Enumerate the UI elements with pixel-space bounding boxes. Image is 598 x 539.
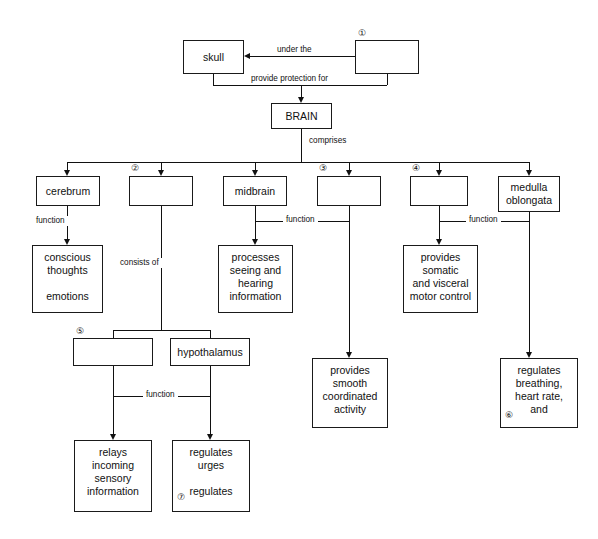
edge-comprises-stem [301,129,302,162]
edge-label-function-blank5: function [143,390,178,400]
edge-label-under-the: under the [274,45,315,55]
node-conscious-thoughts[interactable]: conscious thoughts emotions [32,245,103,313]
node-conscious-thoughts-label: conscious thoughts emotions [36,251,99,303]
node-cerebrum[interactable]: cerebrum [36,176,100,206]
edge-skull-drop [213,74,214,85]
edge-label-provide-protection-for: provide protection for [248,74,331,84]
edge-blank2-fork-bar [113,330,211,331]
marker-2: ② [131,163,139,174]
node-midbrain-label: midbrain [227,185,283,198]
edge-label-comprises: comprises [306,136,349,146]
edge-under-the-arrowhead [244,53,250,59]
node-blank-3[interactable] [317,176,381,206]
node-processes[interactable]: processes seeing and hearing information [218,245,293,313]
node-skull[interactable]: skull [183,40,244,74]
edge-to-medulla [529,162,530,170]
node-blank-1[interactable] [355,40,419,74]
diagram-canvas: skull ① under the provide protection for… [0,0,598,539]
node-medulla-oblongata-label: medulla oblongata [502,181,556,207]
edge-to-midbrain [255,162,256,170]
node-hypothalamus[interactable]: hypothalamus [170,338,250,366]
edge-medulla-stem [529,212,530,352]
node-blank-2[interactable] [129,176,193,206]
node-medulla-oblongata[interactable]: medulla oblongata [498,176,560,212]
node-regulates-breathing-label: regulates breathing, heart rate, and [504,364,574,416]
node-relays-incoming-label: relays incoming sensory information [78,446,148,498]
node-blank-4[interactable] [410,176,468,206]
edge-blank4-function-stem [439,206,440,239]
edge-under-the-line [250,56,355,57]
node-regulates-urges-label: regulates urges regulates [176,446,246,498]
edge-protection-stem [301,85,302,97]
edge-to-cerebrum [67,162,68,170]
node-hypothalamus-label: hypothalamus [174,346,246,359]
edge-consists-of-stem [161,206,162,330]
edge-to-blank2 [161,162,162,170]
edge-label-consists-of: consists of [117,258,162,268]
edge-protection-bar [213,85,387,86]
marker-1: ① [358,28,366,39]
node-brain-label: BRAIN [275,110,328,123]
marker-6: ⑥ [505,410,513,421]
edge-label-function-blank4: function [466,215,501,225]
edge-blank3-stem [349,206,350,352]
marker-7: ⑦ [177,492,185,503]
edge-label-function-cerebrum: function [33,216,68,226]
node-relays-incoming[interactable]: relays incoming sensory information [74,440,152,512]
edge-midbrain-function-stem [255,206,256,239]
edge-fork-right-drop [210,330,211,338]
node-provides-somatic-label: provides somatic and visceral motor cont… [407,251,474,303]
edge-fork-left-drop [113,330,114,338]
marker-3: ③ [319,163,327,174]
node-brain[interactable]: BRAIN [271,103,332,129]
node-provides-smooth[interactable]: provides smooth coordinated activity [312,358,388,428]
edge-blank5-function-stem [113,366,114,434]
node-skull-label: skull [187,51,240,64]
node-processes-label: processes seeing and hearing information [222,251,289,303]
edge-blank1-drop [387,74,388,85]
edge-to-blank3 [349,162,350,170]
edge-label-function-midbrain: function [283,215,318,225]
node-provides-somatic[interactable]: provides somatic and visceral motor cont… [403,245,478,313]
edge-to-blank4 [439,162,440,170]
marker-5: ⑤ [76,326,84,337]
node-provides-smooth-label: provides smooth coordinated activity [316,364,384,416]
node-cerebrum-label: cerebrum [40,185,96,198]
node-midbrain[interactable]: midbrain [223,176,287,206]
marker-4: ④ [412,163,420,174]
node-blank-5[interactable] [73,338,153,366]
edge-hypothalamus-stem [210,366,211,434]
